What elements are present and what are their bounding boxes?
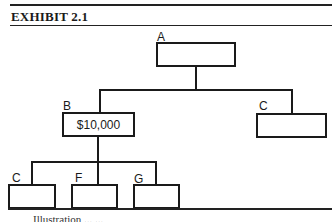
exhibit-title: EXHIBIT 2.1	[11, 9, 88, 25]
connector-to-g	[155, 161, 157, 185]
node-f-box	[71, 184, 118, 209]
node-label-f: F	[75, 171, 82, 185]
node-b-box: $10,000	[62, 112, 135, 137]
connector-b-horizontal	[31, 161, 157, 163]
title-rule	[10, 25, 332, 26]
node-label-c1: C	[259, 99, 268, 113]
node-c1-box	[256, 113, 327, 138]
node-g-box	[133, 184, 180, 209]
connector-to-f	[97, 161, 99, 185]
node-a-box	[156, 42, 236, 67]
connector-to-c1	[291, 89, 293, 114]
connector-a-horizontal	[99, 89, 293, 91]
bottom-rule	[8, 208, 332, 210]
connector-a-down	[195, 67, 197, 90]
top-rule	[10, 4, 332, 6]
exhibit-caption: Illustration ... ...	[33, 213, 103, 222]
connector-b-down	[97, 137, 99, 162]
connector-to-c2	[31, 161, 33, 184]
node-b-value: $10,000	[77, 118, 120, 132]
connector-to-b	[99, 89, 101, 113]
node-c2-box	[8, 184, 56, 209]
node-label-c2: C	[12, 171, 21, 185]
node-label-b: B	[63, 99, 71, 113]
